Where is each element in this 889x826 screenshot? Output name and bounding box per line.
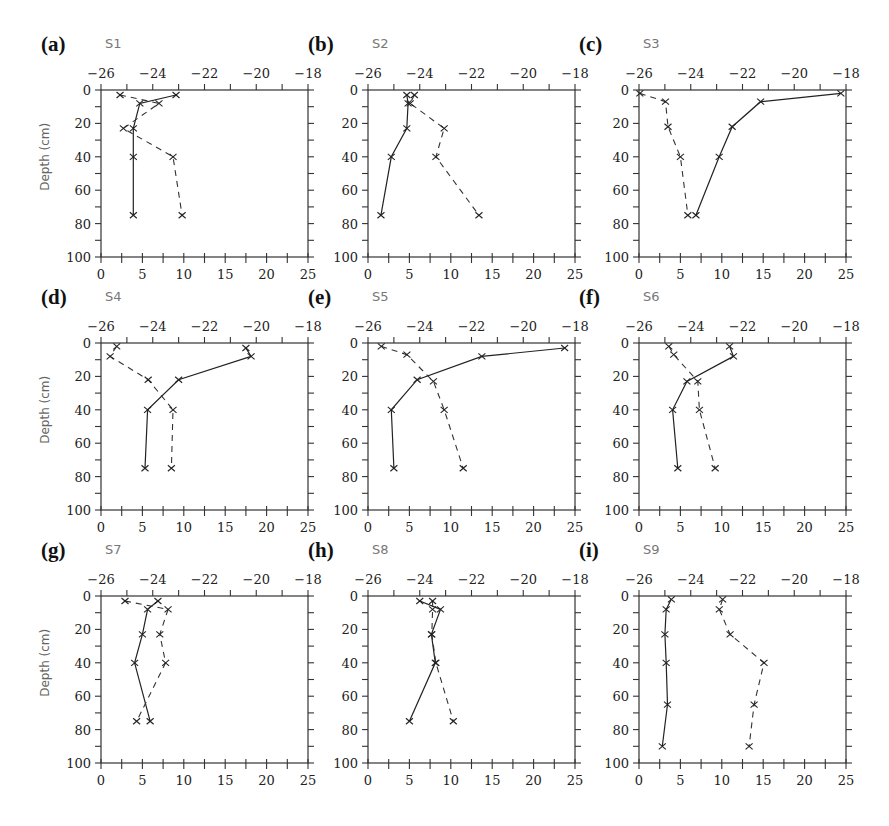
depth-label: 80: [74, 723, 91, 738]
dashed-series-line: [110, 346, 173, 468]
bottom-axis-label: 10: [443, 773, 460, 788]
depth-label: 60: [612, 183, 629, 198]
depth-axis-label: Depth (cm): [38, 123, 52, 191]
panel-s2: (b)S2−26−24−22−20−1805101520250204060801…: [308, 32, 589, 282]
figure-canvas: (a)S1−26−24−22−20−1805101520250204060801…: [0, 0, 889, 826]
depth-label: 20: [341, 116, 358, 131]
x-marker-icon: [378, 343, 385, 349]
depth-label: 0: [621, 336, 629, 351]
top-axis-label: −18: [294, 572, 321, 587]
top-axis-label: −24: [139, 66, 166, 81]
top-axis-label: −24: [406, 319, 433, 334]
site-label: S9: [643, 542, 660, 557]
depth-label: 80: [341, 217, 358, 232]
dashed-series-line: [640, 93, 688, 215]
site-label: S6: [643, 289, 660, 304]
bottom-axis-label: 10: [714, 520, 731, 535]
bottom-axis-label: 10: [714, 267, 731, 282]
depth-label: 60: [74, 689, 91, 704]
depth-label: 0: [350, 336, 358, 351]
solid-series-line: [145, 348, 251, 468]
x-marker-icon: [665, 343, 672, 349]
panel-s6: (f)S6−26−24−22−20−1805101520250204060801…: [579, 285, 860, 535]
depth-label: 20: [612, 369, 629, 384]
depth-label: 0: [350, 83, 358, 98]
depth-label: 80: [74, 470, 91, 485]
x-marker-icon: [677, 154, 684, 160]
top-axis-label: −22: [729, 66, 756, 81]
top-axis-label: −18: [294, 66, 321, 81]
x-marker-icon: [248, 353, 255, 359]
top-axis-label: −22: [729, 572, 756, 587]
depth-label: 100: [66, 503, 91, 518]
x-marker-icon: [664, 124, 671, 130]
solid-series-line: [381, 95, 408, 215]
bottom-axis-label: 0: [97, 520, 105, 535]
top-axis-label: −18: [561, 319, 588, 334]
depth-label: 40: [74, 403, 91, 418]
top-axis-label: −24: [406, 66, 433, 81]
x-marker-icon: [746, 743, 753, 749]
bottom-axis-label: 5: [676, 520, 684, 535]
bottom-axis-label: 15: [755, 520, 772, 535]
bottom-axis-label: 15: [755, 773, 772, 788]
x-marker-icon: [406, 718, 413, 724]
plot-frame: [368, 596, 575, 763]
bottom-axis-label: 0: [364, 773, 372, 788]
bottom-axis-label: 0: [364, 267, 372, 282]
x-marker-icon: [683, 378, 690, 384]
panel-s7: (g)S7−26−24−22−20−1805101520250204060801…: [38, 538, 322, 788]
depth-label: 60: [612, 436, 629, 451]
x-marker-icon: [441, 125, 448, 131]
bottom-axis-label: 5: [138, 267, 146, 282]
depth-label: 60: [341, 689, 358, 704]
depth-axis-label: Depth (cm): [38, 629, 52, 697]
top-axis-label: −20: [781, 66, 808, 81]
top-axis-label: −24: [677, 66, 704, 81]
bottom-axis-label: 5: [405, 267, 413, 282]
panel-letter: (a): [41, 32, 66, 56]
bottom-axis-label: 0: [635, 520, 643, 535]
x-marker-icon: [145, 377, 152, 383]
x-marker-icon: [761, 660, 768, 666]
depth-axis-label: Depth (cm): [38, 376, 52, 444]
x-marker-icon: [696, 407, 703, 413]
x-marker-icon: [414, 377, 421, 383]
top-axis-label: −24: [677, 319, 704, 334]
x-marker-icon: [729, 124, 736, 130]
bottom-axis-label: 0: [97, 267, 105, 282]
bottom-axis-label: 25: [300, 773, 317, 788]
top-axis-label: −20: [781, 572, 808, 587]
panel-s8: (h)S8−26−24−22−20−1805101520250204060801…: [308, 538, 589, 788]
depth-label: 80: [612, 470, 629, 485]
depth-label: 100: [604, 503, 629, 518]
x-marker-icon: [668, 596, 675, 602]
top-axis-label: −26: [625, 572, 652, 587]
bottom-axis-label: 5: [405, 773, 413, 788]
x-marker-icon: [437, 606, 444, 612]
x-marker-icon: [727, 631, 734, 637]
x-marker-icon: [411, 92, 418, 98]
top-axis-label: −20: [510, 572, 537, 587]
depth-label: 40: [341, 656, 358, 671]
bottom-axis-label: 25: [838, 773, 855, 788]
x-marker-icon: [475, 212, 482, 218]
depth-label: 0: [83, 336, 91, 351]
site-label: S3: [643, 36, 660, 51]
site-label: S2: [372, 36, 389, 51]
x-marker-icon: [113, 343, 120, 349]
panel-s5: (e)S5−26−24−22−20−1805101520250204060801…: [308, 285, 589, 535]
bottom-axis-label: 20: [525, 773, 542, 788]
site-label: S8: [372, 542, 389, 557]
x-marker-icon: [716, 606, 723, 612]
bottom-axis-label: 0: [97, 773, 105, 788]
top-axis-label: −18: [561, 66, 588, 81]
top-axis-label: −26: [87, 66, 114, 81]
depth-label: 60: [341, 183, 358, 198]
depth-label: 60: [74, 436, 91, 451]
x-marker-icon: [432, 154, 439, 160]
dashed-series-line: [120, 95, 182, 215]
bottom-axis-label: 25: [838, 520, 855, 535]
bottom-axis-label: 20: [525, 267, 542, 282]
plot-frame: [368, 343, 575, 510]
